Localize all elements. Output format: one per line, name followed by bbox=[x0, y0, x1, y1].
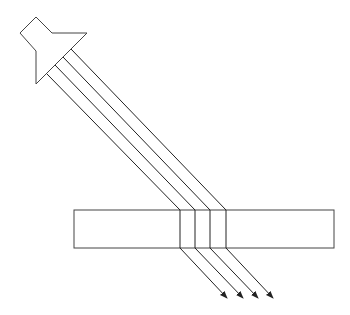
light-ray-1 bbox=[47, 74, 227, 298]
light-rays bbox=[47, 49, 273, 298]
light-ray-3 bbox=[63, 57, 258, 298]
light-ray-2 bbox=[55, 65, 243, 298]
glass-slab bbox=[74, 210, 334, 248]
light-source-icon bbox=[20, 17, 87, 84]
light-ray-4 bbox=[71, 49, 273, 298]
refraction-diagram bbox=[0, 0, 350, 315]
